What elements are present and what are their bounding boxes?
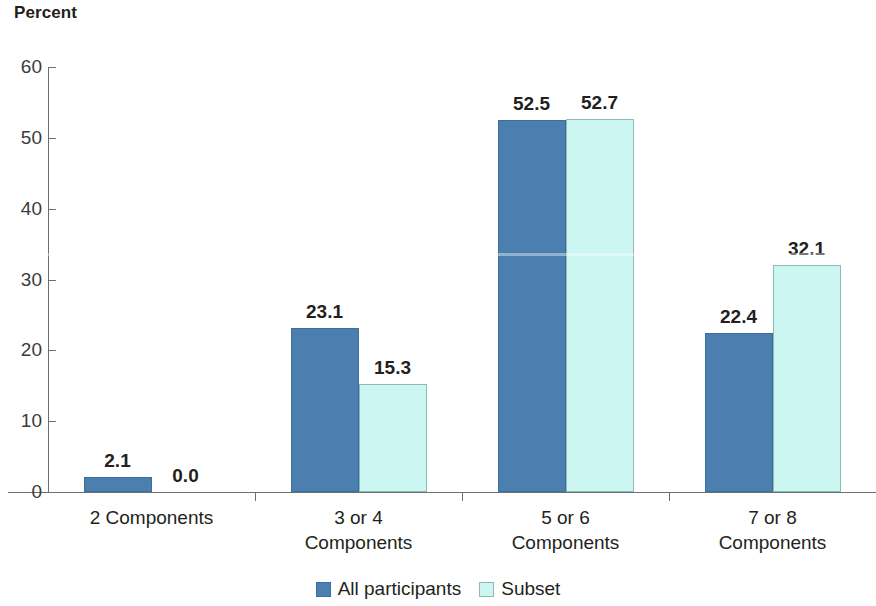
bar-chart: Percent 0102030405060 2.10.023.115.352.5… [0,0,876,606]
bar [84,477,152,492]
x-axis-tick-mark [255,492,256,501]
legend-entry: Subset [479,578,560,600]
bar-value-label: 0.0 [172,465,198,487]
y-axis-tick-label: 0 [31,481,42,503]
plot-area: 2.10.023.115.352.552.722.432.1 [48,67,876,492]
legend-label: Subset [501,578,560,600]
bar-value-label: 15.3 [374,357,411,379]
legend-label: All participants [338,578,462,600]
legend-swatch [479,582,494,597]
bar-value-label: 2.1 [104,450,130,472]
bar [705,333,773,492]
bar-value-label: 52.5 [513,93,550,115]
bar [498,120,566,492]
bar-value-label: 32.1 [788,238,825,260]
x-axis-category-label: 3 or 4 Components [305,505,413,555]
bar [291,328,359,492]
y-axis-title: Percent [14,3,77,23]
y-axis-tick-label: 30 [21,269,42,291]
y-axis-tick-label: 60 [21,56,42,78]
chart-legend: All participantsSubset [0,578,876,600]
legend-swatch [316,582,331,597]
bar-value-label: 23.1 [306,301,343,323]
x-axis-category-label: 7 or 8 Components [719,505,827,555]
x-axis-category-label: 5 or 6 Components [512,505,620,555]
bar [359,384,427,492]
bar [566,119,634,492]
y-axis-tick-label: 20 [21,339,42,361]
x-axis-category-label: 2 Components [90,505,214,530]
legend-entry: All participants [316,578,462,600]
x-axis-tick-mark [669,492,670,501]
scan-artifact-band [48,253,876,256]
x-axis-tick-mark [462,492,463,501]
y-axis-tick-label: 40 [21,198,42,220]
x-axis-line [8,492,876,493]
bar [773,265,841,492]
y-axis-tick-mark [48,492,56,493]
y-axis-tick-label: 50 [21,127,42,149]
bar-value-label: 22.4 [720,306,757,328]
y-axis-tick-label: 10 [21,410,42,432]
bar-value-label: 52.7 [581,92,618,114]
